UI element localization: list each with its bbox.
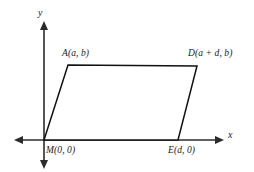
parallelogram-fill [44,65,197,140]
x-axis-arrow-left [14,136,23,144]
y-axis-arrow-down [40,160,48,169]
y-axis-arrow-up [40,21,48,30]
vertex-label-a: A(a, b) [62,49,89,59]
y-axis-label: y [38,8,42,18]
vertex-label-e: E(d, 0) [168,146,195,156]
vertex-label-d: D(a + d, b) [188,49,232,59]
geometry-figure: A(a, b) D(a + d, b) M(0, 0) E(d, 0) y x [0,0,254,172]
x-axis-label: x [228,130,232,140]
figure-canvas [0,0,254,172]
parallelogram-group [44,65,197,140]
x-axis-arrow-right [215,136,224,144]
vertex-label-m: M(0, 0) [46,146,75,156]
